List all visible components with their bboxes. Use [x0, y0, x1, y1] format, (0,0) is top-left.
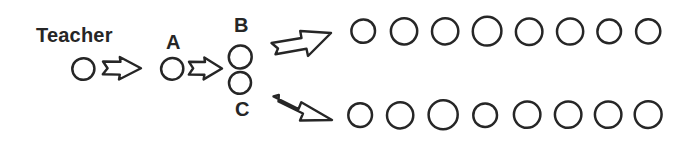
row-circle: [387, 102, 413, 128]
node-circle-a: [161, 58, 183, 80]
row-circle: [348, 103, 372, 127]
diagram-graphics: [0, 0, 685, 141]
arrow-a-to-bc: [189, 57, 222, 79]
label-a: A: [166, 32, 181, 52]
row-circle: [555, 101, 582, 127]
row-circle: [636, 19, 660, 43]
student-row-top: [351, 17, 660, 46]
arrow-teacher-to-a: [103, 57, 141, 80]
node-circle-teacher: [72, 58, 94, 80]
row-circle: [473, 17, 502, 46]
row-circle: [514, 101, 541, 127]
row-circle: [391, 18, 417, 44]
label-teacher: Teacher: [36, 25, 113, 45]
row-circle: [635, 101, 662, 128]
arrow-c-to-row-2: [274, 95, 333, 121]
row-circle: [429, 100, 458, 129]
row-circle: [597, 20, 621, 44]
label-c: C: [235, 99, 250, 119]
row-circle: [516, 19, 543, 45]
row-circle: [557, 18, 583, 44]
row-circle: [351, 19, 375, 42]
student-row-bottom: [348, 100, 661, 129]
row-circle: [432, 18, 458, 44]
label-b: B: [234, 15, 249, 35]
node-circle-b: [229, 46, 252, 69]
arrow-b-to-row-1: [272, 31, 332, 56]
row-circle: [473, 103, 497, 127]
row-circle: [595, 101, 622, 127]
diagram-canvas: Teacher A B C: [0, 0, 685, 141]
node-circle-c: [229, 72, 251, 94]
